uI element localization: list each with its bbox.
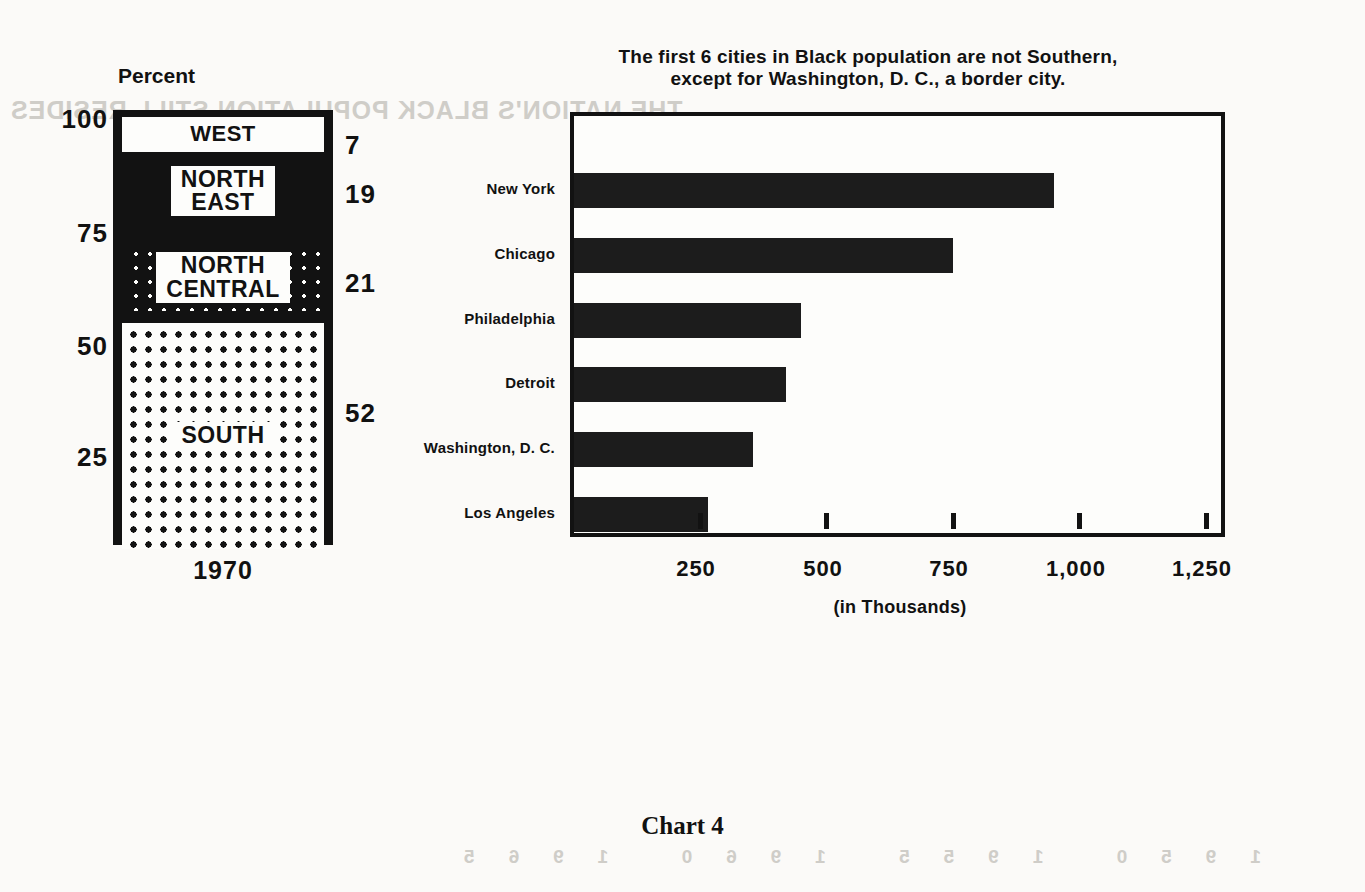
x-tick-label-1250: 1,250 xyxy=(1147,556,1257,582)
segment-label-north-central: NORTHCENTRAL xyxy=(156,252,289,303)
plot-area xyxy=(570,112,1225,537)
x-tick-500 xyxy=(824,513,829,529)
x-tick-1000 xyxy=(1077,513,1082,529)
x-tick-750 xyxy=(951,513,956,529)
city-black-population-chart: The first 6 cities in Black population a… xyxy=(0,0,1365,660)
bar-detroit xyxy=(574,367,786,402)
bar-washington xyxy=(574,432,753,467)
bar-category-chicago: Chicago xyxy=(360,245,555,262)
x-axis-unit-label: (in Thousands) xyxy=(770,597,1030,618)
x-tick-label-250: 250 xyxy=(641,556,751,582)
bar-category-washington: Washington, D. C. xyxy=(360,439,555,456)
bar-category-new-york: New York xyxy=(360,180,555,197)
x-tick-250 xyxy=(698,513,703,529)
bar-category-philadelphia: Philadelphia xyxy=(360,310,555,327)
bar-chicago xyxy=(574,238,953,273)
segment-label-north-east: NORTHEAST xyxy=(171,166,275,217)
chart-title: The first 6 cities in Black population a… xyxy=(548,46,1188,91)
chart-title-line2: except for Washington, D. C., a border c… xyxy=(670,68,1065,89)
x-tick-label-500: 500 xyxy=(768,556,878,582)
bar-new-york xyxy=(574,173,1054,208)
bar-category-los-angeles: Los Angeles xyxy=(360,504,555,521)
x-tick-label-1000: 1,000 xyxy=(1021,556,1131,582)
chart-caption: Chart 4 xyxy=(0,812,1365,840)
segment-label-south: SOUTH xyxy=(168,422,279,449)
bar-category-detroit: Detroit xyxy=(360,374,555,391)
bleed-through-bottom: 1950 1955 1960 1965 xyxy=(430,846,1261,868)
stack-segment-west: WEST xyxy=(122,119,324,150)
bar-philadelphia xyxy=(574,303,801,338)
segment-label-west: WEST xyxy=(122,117,324,151)
chart-title-line1: The first 6 cities in Black population a… xyxy=(619,46,1118,67)
x-tick-label-750: 750 xyxy=(894,556,1004,582)
bar-los-angeles xyxy=(574,497,708,532)
x-tick-1250 xyxy=(1204,513,1209,529)
